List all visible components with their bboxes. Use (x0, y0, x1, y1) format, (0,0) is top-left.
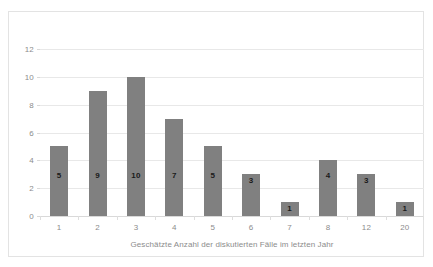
y-axis-tick-mark (37, 188, 40, 189)
x-axis-tick-mark (78, 216, 79, 220)
y-axis-tick-mark (37, 77, 40, 78)
x-axis-ticks (40, 216, 424, 222)
bar[interactable]: 4 (319, 160, 337, 216)
bar-data-label: 4 (319, 171, 337, 180)
x-axis-tick-mark (117, 216, 118, 220)
y-axis-tick-label: 8 (29, 100, 34, 109)
x-axis-tick-mark (232, 216, 233, 220)
bar-data-label: 10 (127, 171, 145, 180)
x-axis-tick-label: 7 (287, 223, 292, 232)
x-axis-labels: 123456781220 (40, 223, 424, 237)
x-axis-tick-mark (270, 216, 271, 220)
x-axis-tick-mark (423, 216, 424, 220)
bar[interactable]: 1 (281, 202, 299, 216)
bar[interactable]: 3 (242, 174, 260, 216)
bar[interactable]: 7 (165, 119, 183, 216)
x-axis-tick-mark (155, 216, 156, 220)
y-axis-tick-label: 10 (25, 72, 34, 81)
x-axis-tick-label: 2 (95, 223, 100, 232)
x-axis-tick-label: 3 (134, 223, 139, 232)
x-axis-tick-mark (40, 216, 41, 220)
y-axis-tick-label: 0 (29, 212, 34, 221)
bar[interactable]: 5 (204, 146, 222, 216)
y-axis-tick-mark (37, 160, 40, 161)
x-axis-tick-label: 20 (400, 223, 409, 232)
plot-area: 59107531431 (40, 49, 424, 216)
bar-data-label: 5 (50, 171, 68, 180)
x-axis-tick-label: 8 (326, 223, 331, 232)
y-axis-tick-label: 4 (29, 156, 34, 165)
x-axis-tick-label: 4 (172, 223, 177, 232)
x-axis-tick-label: 5 (210, 223, 215, 232)
bar[interactable]: 10 (127, 77, 145, 216)
bar-data-label: 1 (396, 204, 414, 213)
y-axis-tick-label: 2 (29, 184, 34, 193)
x-axis-tick-mark (309, 216, 310, 220)
y-axis-tick-mark (37, 49, 40, 50)
x-axis-tick-mark (386, 216, 387, 220)
chart-screenshot: 024681012 59107531431 123456781220 Gesch… (0, 0, 433, 267)
x-axis-tick-label: 12 (362, 223, 371, 232)
y-axis: 024681012 (18, 49, 34, 216)
x-axis-tick-label: 6 (249, 223, 254, 232)
bar-data-label: 3 (242, 176, 260, 185)
bar-data-label: 3 (357, 176, 375, 185)
gridline (40, 77, 424, 78)
bar[interactable]: 5 (50, 146, 68, 216)
bar[interactable]: 3 (357, 174, 375, 216)
bar-data-label: 5 (204, 171, 222, 180)
x-axis-title: Geschätzte Anzahl der diskutierten Fälle… (40, 240, 424, 249)
bar-data-label: 1 (281, 204, 299, 213)
y-axis-tick-mark (37, 105, 40, 106)
y-axis-tick-label: 12 (25, 45, 34, 54)
x-axis-tick-label: 1 (57, 223, 62, 232)
bar-data-label: 9 (89, 171, 107, 180)
x-axis-tick-mark (194, 216, 195, 220)
x-axis-tick-mark (347, 216, 348, 220)
y-axis-tick-mark (37, 133, 40, 134)
gridline (40, 49, 424, 50)
bar-data-label: 7 (165, 171, 183, 180)
bar[interactable]: 9 (89, 91, 107, 216)
bar[interactable]: 1 (396, 202, 414, 216)
y-axis-tick-label: 6 (29, 128, 34, 137)
chart-frame: 024681012 59107531431 123456781220 Gesch… (8, 11, 424, 257)
